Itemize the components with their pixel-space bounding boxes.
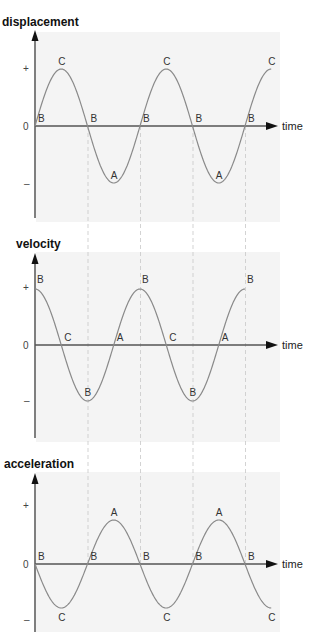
velocity-panel-bg [36, 252, 280, 442]
acceleration-title: acceleration [4, 457, 74, 471]
tick-plus: + [23, 63, 29, 74]
point-label: C [58, 612, 65, 623]
tick-minus: – [24, 178, 30, 189]
point-label: B [143, 113, 150, 124]
point-label: B [91, 113, 98, 124]
point-label: B [91, 551, 98, 562]
point-label: C [163, 56, 170, 67]
point-label: B [190, 387, 197, 398]
point-label: A [117, 332, 124, 343]
point-label: B [196, 551, 203, 562]
tick-zero: 0 [23, 559, 29, 570]
point-label: C [64, 332, 71, 343]
point-label: A [216, 170, 223, 181]
time-label: time [282, 558, 303, 570]
tick-minus: – [24, 614, 30, 625]
displacement-panel-bg [36, 32, 280, 222]
tick-plus: + [23, 500, 29, 511]
acceleration-panel-bg [36, 472, 280, 632]
point-label: B [38, 113, 45, 124]
point-label: B [196, 113, 203, 124]
point-label: A [111, 170, 118, 181]
tick-zero: 0 [23, 121, 29, 132]
point-label: B [85, 387, 92, 398]
point-label: C [163, 612, 170, 623]
time-label: time [282, 120, 303, 132]
displacement-title: displacement [2, 15, 79, 29]
point-label: B [247, 274, 254, 285]
point-label: C [268, 612, 275, 623]
shm-graphs: displacement time + 0 – BCBABCBABC veloc… [0, 0, 314, 632]
point-label: A [111, 507, 118, 518]
point-label: B [143, 551, 150, 562]
tick-zero: 0 [23, 340, 29, 351]
point-label: B [248, 113, 255, 124]
point-label: A [222, 332, 229, 343]
point-label: C [268, 56, 275, 67]
point-label: B [248, 551, 255, 562]
tick-plus: + [23, 282, 29, 293]
point-label: C [169, 332, 176, 343]
velocity-title: velocity [16, 237, 61, 251]
point-label: B [37, 274, 44, 285]
tick-minus: – [24, 395, 30, 406]
point-label: B [38, 551, 45, 562]
point-label: B [142, 274, 149, 285]
point-label: C [58, 56, 65, 67]
time-label: time [282, 339, 303, 351]
point-label: A [216, 507, 223, 518]
